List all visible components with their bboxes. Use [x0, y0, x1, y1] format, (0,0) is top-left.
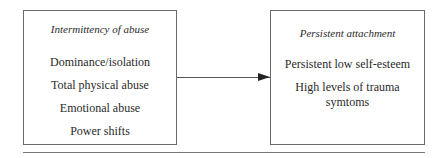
list-item: Dominance/isolation	[24, 51, 176, 74]
list-item: High levels of trauma symtoms	[271, 80, 424, 110]
list-item: Total physical abuse	[24, 74, 176, 97]
persistent-attachment-box: Persistent attachment Persistent low sel…	[270, 10, 425, 145]
bottom-rule	[23, 152, 425, 153]
outcome-list: Persistent low self-esteem High levels o…	[271, 57, 424, 118]
list-item: Persistent low self-esteem	[271, 57, 424, 72]
intermittency-box: Intermittency of abuse Dominance/isolati…	[23, 10, 177, 145]
list-item: Emotional abuse	[24, 97, 176, 120]
box-title: Persistent attachment	[271, 27, 424, 39]
arrowhead-icon	[258, 73, 270, 81]
arrow-connector	[177, 77, 270, 78]
box-title: Intermittency of abuse	[24, 23, 176, 35]
list-item: Power shifts	[24, 120, 176, 143]
factor-list: Dominance/isolation Total physical abuse…	[24, 51, 176, 143]
